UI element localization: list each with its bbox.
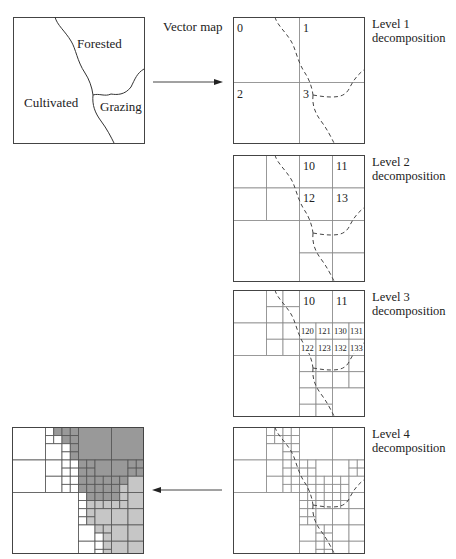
quad-cell bbox=[234, 18, 300, 83]
quad-cell bbox=[324, 484, 332, 492]
quad-cell bbox=[333, 541, 350, 554]
quad-cell bbox=[349, 525, 365, 541]
quad-cell bbox=[120, 492, 128, 500]
quad-cell bbox=[267, 156, 300, 188]
quad-cell bbox=[333, 372, 350, 388]
quadrant-label-2: 2 bbox=[237, 87, 243, 102]
level-1-caption: Level 1 decomposition bbox=[372, 17, 446, 45]
quad-cell bbox=[333, 355, 350, 371]
quad-cell bbox=[300, 220, 333, 252]
quad-cell bbox=[234, 188, 267, 220]
quad-cell bbox=[333, 501, 341, 509]
quadrant-label-121: 121 bbox=[318, 326, 331, 336]
quad-cell bbox=[283, 460, 291, 468]
quad-cell bbox=[308, 509, 316, 517]
quad-cell bbox=[234, 291, 267, 323]
quad-cell bbox=[316, 492, 324, 500]
quadrant-label-132: 132 bbox=[334, 343, 347, 353]
quad-cell bbox=[62, 460, 70, 468]
quad-cell bbox=[79, 492, 87, 500]
level-3-decomposition: 1011120121130131122123132133 bbox=[233, 290, 365, 417]
quad-cell bbox=[87, 501, 95, 509]
quad-cell bbox=[112, 509, 129, 525]
quad-cell bbox=[300, 404, 317, 417]
quad-cell bbox=[234, 220, 300, 282]
quad-cell bbox=[62, 476, 70, 484]
quad-cell bbox=[267, 307, 284, 323]
quad-cell bbox=[300, 428, 333, 460]
quad-cell bbox=[283, 468, 291, 476]
quad-cell bbox=[128, 460, 136, 468]
quad-cell bbox=[79, 428, 112, 460]
quad-cell bbox=[300, 541, 317, 554]
quad-cell bbox=[341, 501, 349, 509]
quad-cell bbox=[128, 525, 144, 541]
quad-cell bbox=[283, 323, 300, 339]
quad-cell bbox=[283, 484, 291, 492]
quad-cell bbox=[112, 541, 129, 554]
region-label-cultivated: Cultivated bbox=[24, 95, 78, 111]
quad-cell bbox=[112, 484, 120, 492]
quad-cell bbox=[283, 436, 291, 444]
quadrant-label-120: 120 bbox=[301, 326, 314, 336]
level-2-grid bbox=[233, 155, 365, 282]
quad-cell bbox=[308, 501, 316, 509]
quad-cell bbox=[54, 428, 62, 436]
quad-cell bbox=[283, 291, 300, 307]
quad-cell bbox=[112, 501, 120, 509]
raster-quadtree-result bbox=[12, 427, 144, 554]
quad-cell bbox=[103, 541, 111, 549]
quad-cell bbox=[87, 460, 95, 468]
quad-cell bbox=[333, 428, 366, 460]
quadrant-label-11: 11 bbox=[336, 294, 348, 309]
quad-cell bbox=[300, 525, 317, 541]
quad-cell bbox=[267, 188, 300, 220]
quad-cell bbox=[54, 436, 62, 444]
quad-cell bbox=[70, 452, 78, 460]
quad-cell bbox=[13, 428, 46, 460]
quad-cell bbox=[70, 484, 78, 492]
quad-cell bbox=[136, 460, 144, 468]
quad-cell bbox=[357, 460, 365, 468]
quad-cell bbox=[70, 468, 78, 476]
quadrant-label-12: 12 bbox=[303, 191, 315, 206]
region-label-forested: Forested bbox=[77, 36, 122, 52]
quad-cell bbox=[357, 468, 365, 476]
quad-cell bbox=[128, 492, 144, 508]
quad-cell bbox=[316, 541, 324, 549]
quad-cell bbox=[70, 428, 78, 436]
quadrant-label-3: 3 bbox=[303, 87, 309, 102]
quad-cell bbox=[103, 484, 111, 492]
quad-cell bbox=[316, 484, 324, 492]
quad-cell bbox=[70, 476, 78, 484]
quad-cell bbox=[300, 517, 308, 525]
quad-cell bbox=[267, 436, 275, 444]
quad-cell bbox=[333, 492, 341, 500]
arrow-left-icon bbox=[152, 485, 222, 495]
level-1-decomposition: 0123 bbox=[233, 17, 365, 144]
quad-cell bbox=[79, 541, 96, 554]
quadrant-label-13: 13 bbox=[336, 191, 348, 206]
quad-cell bbox=[308, 468, 316, 476]
quad-cell bbox=[103, 501, 111, 509]
quad-cell bbox=[308, 476, 316, 484]
region-label-grazing: Grazing bbox=[100, 99, 142, 115]
quad-cell bbox=[79, 509, 87, 517]
arrow-right-icon bbox=[153, 77, 223, 87]
quadrant-label-122: 122 bbox=[301, 343, 314, 353]
quadrant-label-10: 10 bbox=[303, 294, 315, 309]
quad-cell bbox=[291, 428, 299, 436]
quad-cell bbox=[112, 428, 145, 460]
quad-cell bbox=[267, 428, 275, 436]
quad-cell bbox=[333, 388, 366, 417]
quad-cell bbox=[120, 484, 128, 492]
quad-cell bbox=[95, 476, 103, 484]
quad-cell bbox=[79, 460, 87, 468]
quad-cell bbox=[62, 436, 70, 444]
quad-cell bbox=[87, 476, 95, 484]
quad-cell bbox=[316, 509, 333, 525]
quad-cell bbox=[103, 492, 111, 500]
quad-cell bbox=[46, 444, 63, 460]
quad-cell bbox=[300, 253, 333, 282]
quad-cell bbox=[103, 525, 111, 533]
